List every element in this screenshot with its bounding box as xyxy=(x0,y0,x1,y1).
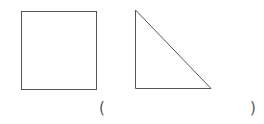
right-triangle-shape xyxy=(136,10,212,89)
open-paren: ( xyxy=(99,101,105,116)
answer-blank[interactable] xyxy=(108,101,248,117)
close-paren: ) xyxy=(250,101,256,116)
square-shape xyxy=(22,12,97,90)
